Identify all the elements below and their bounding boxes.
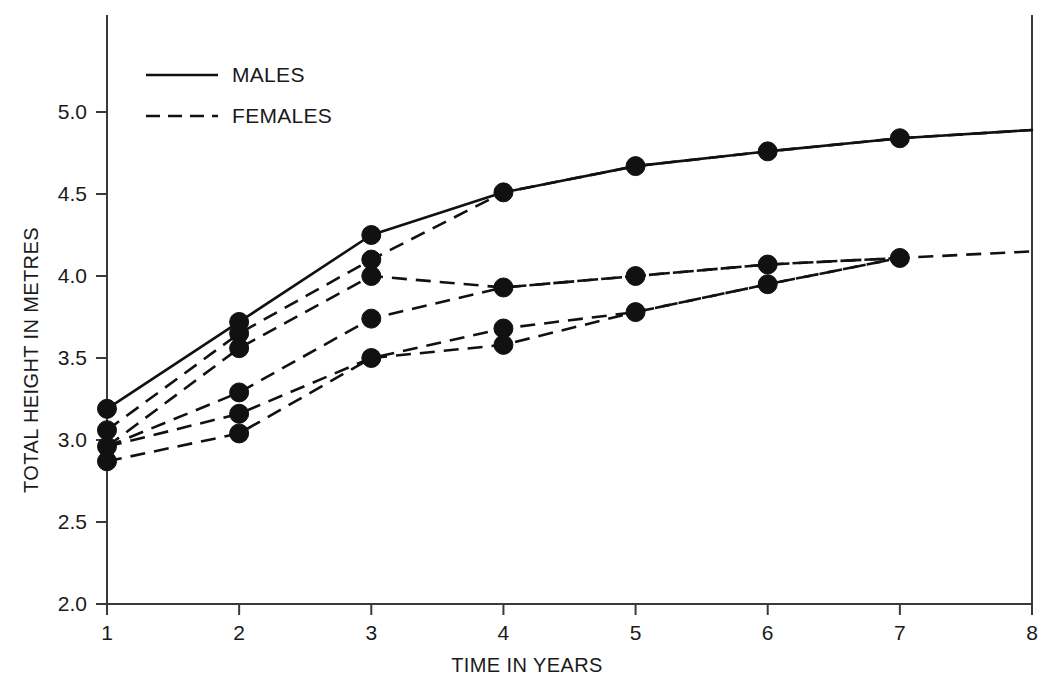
series-line bbox=[107, 130, 1032, 409]
data-point-marker bbox=[230, 404, 249, 423]
y-tick-label: 3.0 bbox=[58, 428, 87, 451]
x-axis-title: TIME IN YEARS bbox=[451, 654, 603, 676]
x-tick-label: 3 bbox=[365, 621, 377, 644]
data-point-marker bbox=[362, 309, 381, 328]
x-tick-label: 8 bbox=[1026, 621, 1038, 644]
y-axis: 2.02.53.03.54.04.55.0 bbox=[58, 15, 107, 615]
data-point-marker bbox=[758, 255, 777, 274]
data-point-marker bbox=[98, 399, 117, 418]
chart-container: 2.02.53.03.54.04.55.0 12345678 MALES FEM… bbox=[0, 0, 1054, 699]
y-axis-title: TOTAL HEIGHT IN METRES bbox=[20, 227, 42, 493]
x-tick-label: 1 bbox=[101, 621, 113, 644]
data-point-marker bbox=[758, 275, 777, 294]
y-tick-label: 3.5 bbox=[58, 346, 87, 369]
y-tick-group: 2.02.53.03.54.04.55.0 bbox=[58, 100, 107, 615]
x-tick-label: 6 bbox=[762, 621, 774, 644]
legend: MALES FEMALES bbox=[146, 63, 332, 127]
y-tick-label: 2.5 bbox=[58, 510, 87, 533]
y-tick-label: 2.0 bbox=[58, 592, 87, 615]
x-tick-label: 4 bbox=[498, 621, 510, 644]
data-point-marker bbox=[362, 226, 381, 245]
data-point-marker bbox=[494, 183, 513, 202]
data-point-marker bbox=[230, 339, 249, 358]
data-point-marker bbox=[890, 129, 909, 148]
data-point-marker bbox=[362, 267, 381, 286]
data-point-marker bbox=[98, 452, 117, 471]
legend-label-females: FEMALES bbox=[232, 104, 332, 127]
x-tick-label: 2 bbox=[233, 621, 245, 644]
legend-label-males: MALES bbox=[232, 63, 305, 86]
data-point-marker bbox=[494, 335, 513, 354]
y-tick-label: 4.0 bbox=[58, 264, 87, 287]
data-point-marker bbox=[230, 383, 249, 402]
marker-group bbox=[98, 129, 910, 471]
y-tick-label: 5.0 bbox=[58, 100, 87, 123]
data-point-marker bbox=[758, 142, 777, 161]
data-point-marker bbox=[362, 349, 381, 368]
x-tick-label: 5 bbox=[630, 621, 642, 644]
data-point-marker bbox=[230, 424, 249, 443]
data-point-marker bbox=[494, 278, 513, 297]
x-tick-label: 7 bbox=[894, 621, 906, 644]
data-point-marker bbox=[890, 248, 909, 267]
x-axis: 12345678 bbox=[101, 604, 1038, 644]
y-tick-label: 4.5 bbox=[58, 182, 87, 205]
x-tick-group: 12345678 bbox=[101, 604, 1038, 644]
data-point-marker bbox=[626, 303, 645, 322]
data-point-marker bbox=[626, 267, 645, 286]
data-point-marker bbox=[626, 157, 645, 176]
growth-line-chart: 2.02.53.03.54.04.55.0 12345678 MALES FEM… bbox=[0, 0, 1054, 699]
